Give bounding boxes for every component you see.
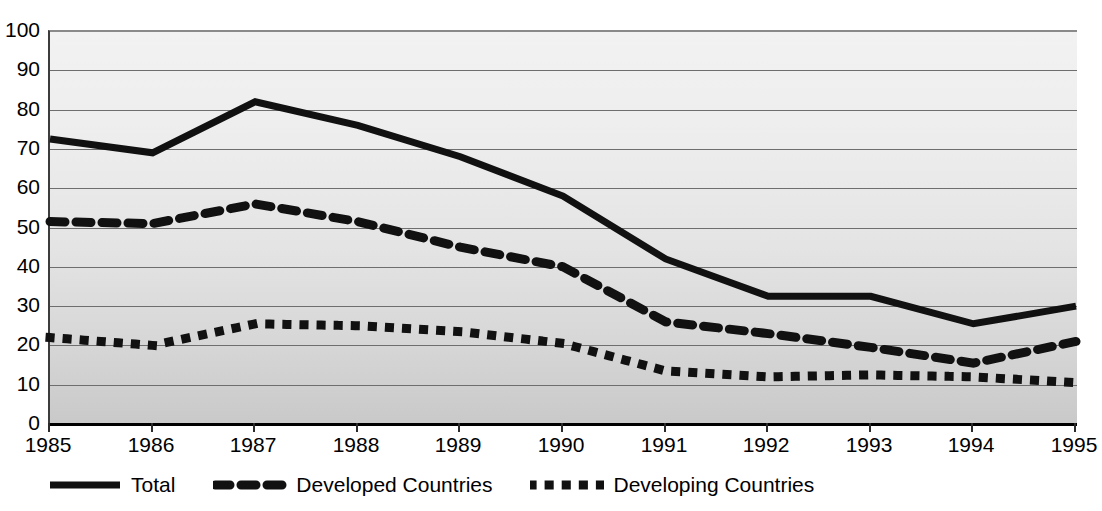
y-tick-label: 100 [0, 19, 40, 40]
x-tick [561, 423, 563, 432]
series-lines [50, 31, 1077, 424]
x-tick-label: 1987 [208, 433, 298, 457]
legend-label: Total [131, 474, 175, 496]
x-tick-label: 1991 [619, 433, 709, 457]
y-tick-label: 10 [0, 373, 40, 394]
y-tick-label: 60 [0, 176, 40, 197]
y-tick-label: 90 [0, 58, 40, 79]
plot-area [48, 30, 1077, 424]
x-tick-label: 1988 [311, 433, 401, 457]
x-tick-label: 1985 [3, 433, 93, 457]
x-tick [664, 423, 666, 432]
legend-label: Developing Countries [613, 474, 814, 496]
y-tick-label: 30 [0, 294, 40, 315]
x-tick [971, 423, 973, 432]
legend-label: Developed Countries [296, 474, 492, 496]
x-tick-label: 1994 [926, 433, 1016, 457]
x-tick [356, 423, 358, 432]
x-tick [766, 423, 768, 432]
y-axis: 1009080706050403020100 [0, 0, 40, 440]
x-tick [1074, 423, 1076, 432]
x-tick-label: 1992 [721, 433, 811, 457]
x-axis-ticks [48, 423, 1075, 432]
x-tick [869, 423, 871, 432]
y-tick-label: 20 [0, 333, 40, 354]
legend: TotalDeveloped CountriesDeveloping Count… [48, 468, 852, 502]
x-tick-label: 1986 [106, 433, 196, 457]
x-tick-label: 1995 [1029, 433, 1102, 457]
y-tick-label: 70 [0, 137, 40, 158]
x-tick [253, 423, 255, 432]
x-tick [48, 423, 50, 432]
legend-item: Developing Countries [530, 474, 814, 496]
x-tick-label: 1993 [824, 433, 914, 457]
legend-item: Developed Countries [213, 474, 492, 496]
y-tick-label: 40 [0, 255, 40, 276]
legend-item: Total [48, 474, 175, 496]
legend-swatch-dashed [213, 474, 287, 496]
y-tick-label: 0 [0, 412, 40, 433]
x-tick [151, 423, 153, 432]
y-tick-label: 80 [0, 98, 40, 119]
legend-swatch-solid [48, 474, 122, 496]
x-tick [458, 423, 460, 432]
y-tick-label: 50 [0, 216, 40, 237]
x-tick-label: 1989 [413, 433, 503, 457]
x-tick-label: 1990 [516, 433, 606, 457]
legend-swatch-dotted [530, 474, 604, 496]
x-axis: 1985198619871988198919901991199219931994… [48, 433, 1075, 461]
